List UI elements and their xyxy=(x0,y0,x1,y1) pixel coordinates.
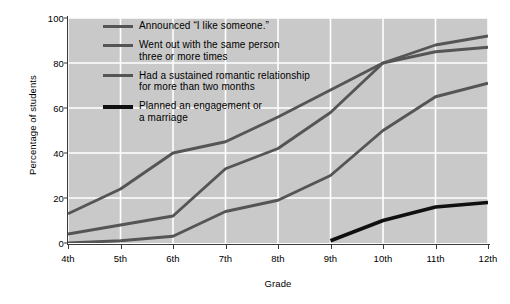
legend-item-label: Went out with the same person three or m… xyxy=(139,39,280,62)
x-tick-mark xyxy=(278,244,279,249)
x-tick-label: 11th xyxy=(416,253,456,264)
x-tick-mark xyxy=(488,244,489,249)
x-tick-label: 4th xyxy=(48,253,88,264)
x-tick-mark xyxy=(121,244,122,249)
legend-item-label: Announced “I like someone.” xyxy=(139,20,269,32)
legend-item: Planned an engagement or a marriage xyxy=(103,100,353,123)
x-tick-label: 7th xyxy=(206,253,246,264)
x-axis-title: Grade xyxy=(68,278,488,289)
legend-item-label: Had a sustained romantic relationship fo… xyxy=(139,70,310,93)
x-tick-label: 5th xyxy=(101,253,141,264)
x-tick-mark xyxy=(436,244,437,249)
legend-item: Had a sustained romantic relationship fo… xyxy=(103,70,353,93)
x-tick-mark xyxy=(68,244,69,249)
x-tick-label: 8th xyxy=(258,253,298,264)
legend-line-swatch xyxy=(103,74,133,77)
chart-legend: Announced “I like someone.”Went out with… xyxy=(103,20,353,131)
x-tick-label: 9th xyxy=(311,253,351,264)
line-chart: Percentage of students 020406080100 4th5… xyxy=(0,0,510,304)
legend-line-swatch xyxy=(103,44,133,47)
legend-item: Went out with the same person three or m… xyxy=(103,39,353,62)
x-tick-label: 6th xyxy=(153,253,193,264)
x-tick-label: 12th xyxy=(468,253,508,264)
x-tick-label: 10th xyxy=(363,253,403,264)
x-tick-mark xyxy=(173,244,174,249)
legend-item: Announced “I like someone.” xyxy=(103,20,353,32)
legend-line-swatch xyxy=(103,25,133,28)
legend-item-label: Planned an engagement or a marriage xyxy=(139,100,262,123)
x-tick-mark xyxy=(331,244,332,249)
x-tick-mark xyxy=(383,244,384,249)
legend-line-swatch xyxy=(103,105,133,109)
x-tick-mark xyxy=(226,244,227,249)
